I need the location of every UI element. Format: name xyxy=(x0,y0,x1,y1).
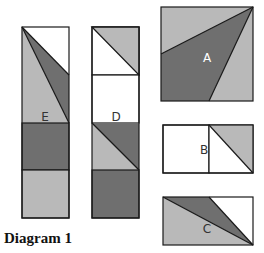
block-e-light-square xyxy=(22,170,69,218)
block-d-label: D xyxy=(111,110,120,124)
block-a: A xyxy=(161,7,253,101)
block-b-label: B xyxy=(200,143,208,157)
block-e: E xyxy=(22,27,69,218)
block-a-label: A xyxy=(203,51,212,65)
block-d-dark-square xyxy=(92,170,139,218)
block-b: B xyxy=(163,125,253,173)
block-d: D xyxy=(92,27,139,218)
block-c-label: C xyxy=(203,222,211,236)
diagram-canvas: E D A B C Diagr xyxy=(0,0,264,253)
block-c: C xyxy=(163,197,253,245)
block-e-label: E xyxy=(41,110,49,124)
block-e-dark-square xyxy=(22,123,69,170)
diagram-caption: Diagram 1 xyxy=(4,230,72,246)
